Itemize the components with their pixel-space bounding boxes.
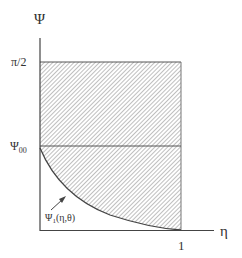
curve-label: Ψ1(η,θ) bbox=[45, 212, 75, 225]
y-tick-psi00: Ψ00 bbox=[10, 139, 27, 155]
y-axis-label: Ψ bbox=[34, 11, 46, 27]
y-tick-pi-half: π/2 bbox=[11, 55, 26, 69]
x-axis-label: η bbox=[220, 223, 228, 239]
x-tick-one: 1 bbox=[178, 238, 185, 253]
diagram-canvas: Ψ η π/2 Ψ00 1 Ψ1(η,θ) bbox=[0, 0, 242, 258]
